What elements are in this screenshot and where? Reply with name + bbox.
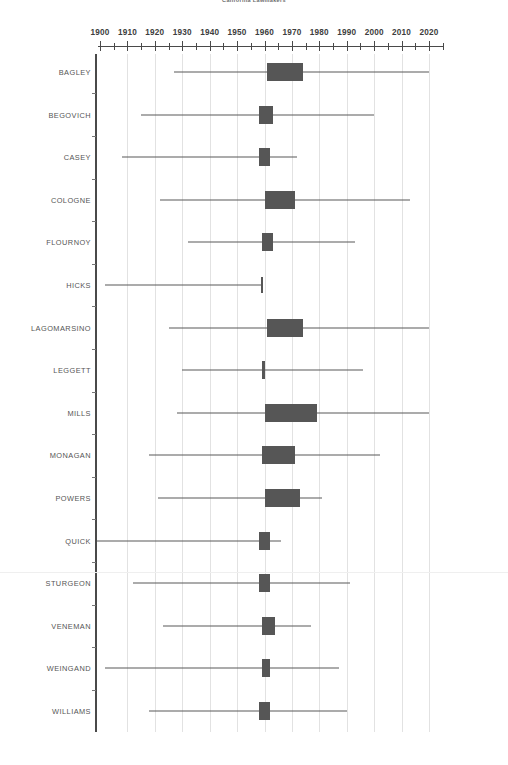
row-label-weingand: WEINGAND	[0, 664, 91, 673]
whisker-williams	[149, 711, 346, 712]
whisker-veneman	[163, 625, 311, 626]
y-axis-tick	[92, 392, 96, 393]
gridline-2010	[402, 54, 403, 732]
box-mills	[265, 404, 317, 422]
row-label-begovich: BEGOVICH	[0, 110, 91, 119]
y-axis-tick	[92, 477, 96, 478]
whisker-weingand	[105, 668, 338, 669]
box-flournoy	[262, 233, 273, 251]
box-weingand	[262, 659, 270, 677]
x-axis-tick-2010	[402, 41, 403, 51]
y-axis-tick	[92, 306, 96, 307]
y-axis-spine	[95, 54, 97, 732]
x-axis-tick-labels: 1900191019201930194019501960197019801990…	[0, 28, 508, 41]
x-tick-label-1980: 1980	[310, 28, 329, 37]
box-casey	[259, 148, 270, 166]
x-tick-label-2000: 2000	[365, 28, 384, 37]
row-label-mills: MILLS	[0, 408, 91, 417]
gridline-1980	[319, 54, 320, 732]
x-tick-label-1900: 1900	[90, 28, 109, 37]
row-label-lagomarsino: LAGOMARSINO	[0, 323, 91, 332]
x-tick-label-1950: 1950	[228, 28, 247, 37]
box-begovich	[259, 106, 273, 124]
x-axis-tick-1980	[319, 41, 320, 51]
x-axis-tick-2025	[443, 43, 444, 50]
y-axis-tick	[92, 562, 96, 563]
box-lagomarsino	[267, 319, 303, 337]
box-cologne	[265, 191, 295, 209]
x-tick-label-1940: 1940	[200, 28, 219, 37]
box-hicks	[261, 277, 263, 293]
x-axis-tick-1900	[100, 41, 101, 51]
gridline-1970	[292, 54, 293, 732]
row-label-leggett: LEGGETT	[0, 366, 91, 375]
y-axis-tick	[92, 221, 96, 222]
row-label-cologne: COLOGNE	[0, 195, 91, 204]
box-powers	[265, 489, 301, 507]
y-axis-tick	[92, 264, 96, 265]
row-label-quick: QUICK	[0, 536, 91, 545]
whisker-sturgeon	[133, 583, 350, 584]
x-axis-tick-1910	[127, 41, 128, 51]
gridline-1930	[182, 54, 183, 732]
box-monagan	[262, 446, 295, 464]
x-axis-tick-1935	[196, 43, 197, 50]
x-tick-label-1960: 1960	[255, 28, 274, 37]
box-williams	[259, 702, 270, 720]
y-axis-tick	[92, 136, 96, 137]
row-label-hicks: HICKS	[0, 281, 91, 290]
page-seam-artifact	[0, 572, 508, 573]
box-veneman	[262, 617, 276, 635]
gridline-1920	[155, 54, 156, 732]
gridline-1990	[347, 54, 348, 732]
x-tick-label-1970: 1970	[282, 28, 301, 37]
y-axis-tick	[92, 519, 96, 520]
x-tick-label-1990: 1990	[337, 28, 356, 37]
x-axis-tick-1970	[292, 41, 293, 51]
y-axis-tick	[92, 93, 96, 94]
y-axis-tick	[92, 349, 96, 350]
x-axis-tick-1995	[360, 43, 361, 50]
gridline-1950	[237, 54, 238, 732]
x-axis-tick-2020	[429, 41, 430, 51]
x-tick-label-2020: 2020	[420, 28, 439, 37]
y-axis-tick	[92, 690, 96, 691]
row-label-powers: POWERS	[0, 494, 91, 503]
x-tick-label-2010: 2010	[392, 28, 411, 37]
x-tick-label-1920: 1920	[145, 28, 164, 37]
x-axis-tick-1965	[278, 43, 279, 50]
whisker-quick	[97, 540, 281, 541]
y-axis-tick	[92, 434, 96, 435]
whisker-casey	[122, 157, 297, 158]
row-label-williams: WILLIAMS	[0, 707, 91, 716]
x-axis-tick-1920	[155, 41, 156, 51]
gridline-1940	[210, 54, 211, 732]
y-axis-tick	[92, 647, 96, 648]
gridline-2000	[374, 54, 375, 732]
row-label-casey: CASEY	[0, 153, 91, 162]
box-quick	[259, 532, 270, 550]
y-axis-tick	[92, 605, 96, 606]
y-axis-tick	[92, 179, 96, 180]
box-plot-chart: California Lawmakers 1900191019201930194…	[0, 0, 508, 765]
x-axis-tick-1955	[251, 43, 252, 50]
x-axis-tick-1985	[333, 43, 334, 50]
x-axis-tick-1940	[210, 41, 211, 51]
box-sturgeon	[259, 574, 270, 592]
box-bagley	[267, 63, 303, 81]
x-axis-tick-1930	[182, 41, 183, 51]
x-tick-label-1930: 1930	[173, 28, 192, 37]
row-label-sturgeon: STURGEON	[0, 579, 91, 588]
x-axis-tick-1925	[169, 43, 170, 50]
row-label-bagley: BAGLEY	[0, 68, 91, 77]
x-axis-tick-1915	[141, 43, 142, 50]
x-axis-tick-1905	[114, 43, 115, 50]
gridline-2020	[429, 54, 430, 732]
x-axis-tick-1945	[223, 43, 224, 50]
x-axis-tick-1950	[237, 41, 238, 51]
x-axis-tick-2015	[415, 43, 416, 50]
whisker-hicks	[105, 285, 261, 286]
x-axis-tick-2000	[374, 41, 375, 51]
row-label-monagan: MONAGAN	[0, 451, 91, 460]
x-axis-tick-1960	[265, 41, 266, 51]
